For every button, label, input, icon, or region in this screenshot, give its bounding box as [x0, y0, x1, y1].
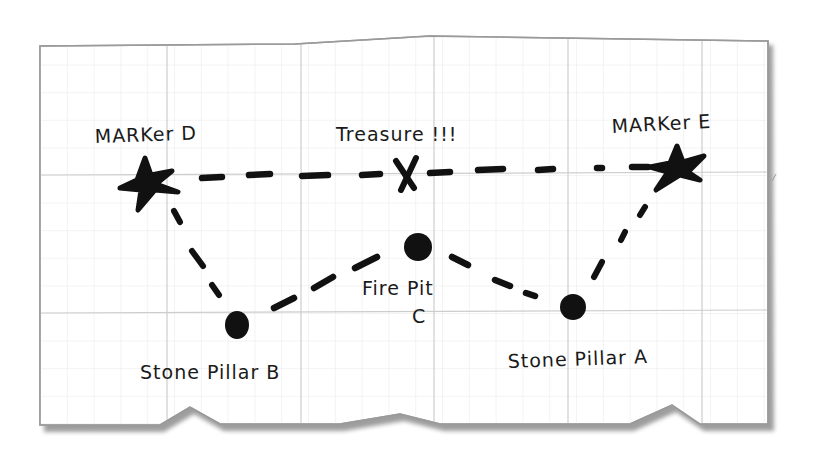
treasure-label: Treasure !!! [335, 123, 457, 145]
treasure-map: MARKer D Treasure !!! MARKer E Fire Pit … [0, 0, 813, 464]
dot-icon [225, 311, 249, 339]
dot-icon [404, 233, 432, 261]
fire-pit-letter: C [412, 305, 426, 327]
fire-pit-label: Fire Pit [362, 277, 434, 299]
stone-pillar-b-label: Stone Pillar B [140, 361, 280, 383]
marker-d-label: MARKer D [94, 121, 197, 147]
dot-icon [560, 294, 586, 320]
